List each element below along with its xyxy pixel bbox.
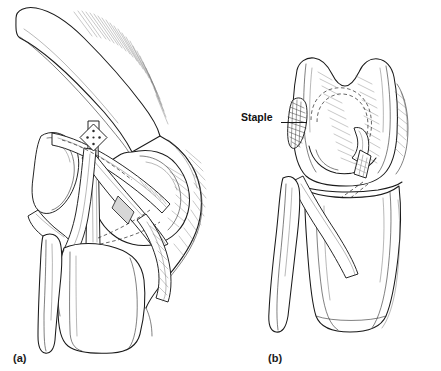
staple-callout-label: Staple — [241, 111, 273, 123]
caption-panel-a: (a) — [13, 352, 26, 364]
posterior-soft-tissue — [146, 308, 152, 336]
panel-b-anterior-knee — [220, 0, 441, 371]
panel-a-drawing — [0, 0, 220, 371]
caption-panel-b: (b) — [268, 352, 282, 364]
figure-root: Staple (a) (b) — [0, 0, 441, 371]
distal-femur — [293, 58, 398, 186]
staple-callout-leader-line — [281, 122, 307, 123]
tibia — [58, 244, 145, 354]
fibula — [38, 234, 62, 353]
panel-a-lateral-knee — [0, 0, 220, 371]
fibula — [269, 176, 300, 332]
panel-b-drawing — [220, 0, 441, 371]
